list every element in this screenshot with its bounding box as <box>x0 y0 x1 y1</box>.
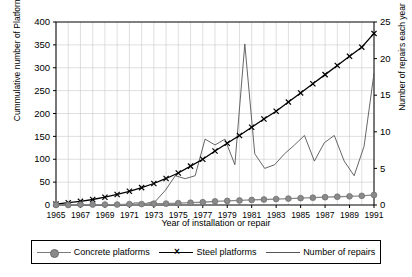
x-tick-label: 1991 <box>365 210 384 220</box>
x-tick-label: 1971 <box>120 210 139 220</box>
x-tick-label: 1975 <box>169 210 188 220</box>
y-tick-label-right: 25 <box>380 16 391 27</box>
y-tick-label-right: 15 <box>380 89 391 100</box>
y-tick-label-left: 300 <box>34 62 50 73</box>
steel-marker-icon: × <box>159 247 193 257</box>
data-point-concrete <box>371 192 377 198</box>
repairs-line-icon <box>266 247 300 257</box>
data-point-concrete <box>78 202 84 208</box>
data-point-concrete <box>65 202 71 208</box>
data-point-concrete <box>285 196 291 202</box>
data-point-concrete <box>102 202 108 208</box>
legend-label-repairs: Number of repairs <box>303 247 375 257</box>
data-point-concrete <box>163 201 169 207</box>
y-tick-label-right: 20 <box>380 53 391 64</box>
data-point-concrete <box>114 202 120 208</box>
y-tick-label-left: 350 <box>34 39 50 50</box>
y-tick-label-left: 200 <box>34 108 50 119</box>
y-tick-label-left: 100 <box>34 153 50 164</box>
y-tick-label-left: 0 <box>45 199 50 210</box>
data-point-concrete <box>175 200 181 206</box>
data-point-concrete <box>347 193 353 199</box>
data-point-concrete <box>212 198 218 204</box>
data-point-concrete <box>53 202 59 208</box>
legend-item-repairs: Number of repairs <box>266 247 375 257</box>
x-tick-label: 1965 <box>47 210 66 220</box>
x-tick-label: 1973 <box>144 210 163 220</box>
data-point-concrete <box>200 199 206 205</box>
data-point-concrete <box>224 198 230 204</box>
x-tick-label: 1969 <box>95 210 114 220</box>
x-tick-label: 1987 <box>316 210 335 220</box>
data-point-concrete <box>139 201 145 207</box>
chart-figure: Cummulative number of Platforms Number o… <box>0 0 412 277</box>
y-tick-label-left: 150 <box>34 131 50 142</box>
legend-label-concrete: Concrete platforms <box>74 247 150 257</box>
data-point-concrete <box>188 200 194 206</box>
x-tick-label: 1985 <box>291 210 310 220</box>
y-tick-label-right: 0 <box>380 199 385 210</box>
data-point-concrete <box>237 198 243 204</box>
data-point-concrete <box>249 197 255 203</box>
data-point-concrete <box>126 201 132 207</box>
legend-label-steel: Steel platforms <box>196 247 256 257</box>
y-tick-label-right: 5 <box>380 163 385 174</box>
data-point-concrete <box>90 202 96 208</box>
x-tick-label: 1977 <box>193 210 212 220</box>
data-point-concrete <box>273 196 279 202</box>
data-point-concrete <box>261 197 267 203</box>
data-point-concrete <box>298 195 304 201</box>
chart-legend: Concrete platforms × Steel platforms Num… <box>31 240 381 264</box>
legend-item-steel: × Steel platforms <box>159 247 256 257</box>
x-tick-label: 1983 <box>267 210 286 220</box>
x-tick-label: 1989 <box>340 210 359 220</box>
plot-area: 0501001502002503003504000510152025196519… <box>0 0 412 277</box>
x-tick-label: 1967 <box>71 210 90 220</box>
x-tick-label: 1981 <box>242 210 261 220</box>
legend-item-concrete: Concrete platforms <box>37 247 150 257</box>
concrete-marker-icon <box>37 247 71 257</box>
data-point-concrete <box>151 201 157 207</box>
x-tick-label: 1979 <box>218 210 237 220</box>
y-tick-label-left: 50 <box>39 176 50 187</box>
data-point-concrete <box>334 194 340 200</box>
chart-canvas: 0501001502002503003504000510152025196519… <box>0 0 412 277</box>
data-point-concrete <box>359 193 365 199</box>
y-tick-label-right: 10 <box>380 126 391 137</box>
data-point-concrete <box>310 195 316 201</box>
y-tick-label-left: 400 <box>34 16 50 27</box>
data-point-concrete <box>322 194 328 200</box>
y-tick-label-left: 250 <box>34 85 50 96</box>
